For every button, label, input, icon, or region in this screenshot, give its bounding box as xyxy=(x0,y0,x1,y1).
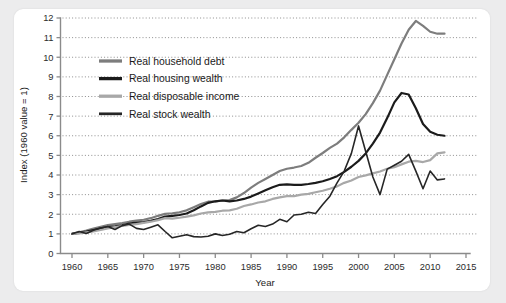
svg-text:2: 2 xyxy=(48,210,53,220)
svg-text:7: 7 xyxy=(48,112,53,122)
x-axis-title: Year xyxy=(255,277,275,288)
svg-text:11: 11 xyxy=(44,33,54,43)
svg-text:2005: 2005 xyxy=(384,262,405,272)
chart-card: 0123456789101112 19601965197019751980198… xyxy=(14,9,490,291)
svg-text:6: 6 xyxy=(48,131,53,141)
svg-text:2010: 2010 xyxy=(420,262,441,272)
svg-text:1990: 1990 xyxy=(277,262,298,272)
series-line-1 xyxy=(72,93,445,234)
svg-text:1980: 1980 xyxy=(205,262,226,272)
line-chart: 0123456789101112 19601965197019751980198… xyxy=(14,9,490,291)
svg-text:3: 3 xyxy=(48,190,53,200)
y-axis-title: Index (1960 value = 1) xyxy=(18,87,29,183)
svg-text:1960: 1960 xyxy=(62,262,83,272)
svg-text:4: 4 xyxy=(48,170,53,180)
svg-text:1995: 1995 xyxy=(312,262,333,272)
svg-text:1: 1 xyxy=(48,229,53,239)
svg-text:12: 12 xyxy=(43,13,53,23)
chart-legend: Real household debtReal housing wealthRe… xyxy=(99,56,240,120)
x-axis-ticks: 1960196519701975198019851990199520002005… xyxy=(62,254,477,272)
legend-label-0: Real household debt xyxy=(129,56,224,67)
legend-label-2: Real disposable income xyxy=(129,91,240,102)
svg-text:1965: 1965 xyxy=(97,262,118,272)
gridlines xyxy=(63,18,479,234)
y-axis-ticks: 0123456789101112 xyxy=(43,13,60,259)
svg-text:0: 0 xyxy=(48,249,53,259)
svg-text:2015: 2015 xyxy=(456,262,477,272)
svg-text:8: 8 xyxy=(48,92,53,102)
svg-text:2000: 2000 xyxy=(348,262,369,272)
legend-label-3: Real stock wealth xyxy=(129,109,211,120)
series-lines xyxy=(72,21,445,238)
svg-text:10: 10 xyxy=(43,53,53,63)
chart-page: 0123456789101112 19601965197019751980198… xyxy=(0,0,506,303)
svg-text:1975: 1975 xyxy=(169,262,190,272)
svg-text:9: 9 xyxy=(48,72,53,82)
svg-text:1970: 1970 xyxy=(133,262,154,272)
svg-text:5: 5 xyxy=(48,151,53,161)
svg-text:1985: 1985 xyxy=(241,262,262,272)
legend-label-1: Real housing wealth xyxy=(129,73,223,84)
